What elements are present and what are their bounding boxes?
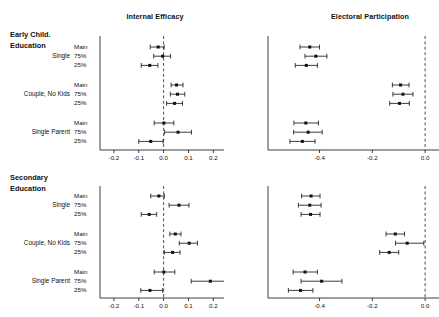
axis-tick-label: 0.0 — [150, 154, 178, 161]
estimate-marker — [154, 270, 175, 275]
axis-tick-label: 0.2 — [199, 154, 227, 161]
estimate-marker — [390, 101, 410, 106]
axis-tick-label: 0.0 — [150, 302, 178, 309]
estimate-marker — [151, 194, 165, 199]
estimate-marker — [170, 232, 181, 237]
axis-tick-label: -0.1 — [125, 302, 153, 309]
estimate-marker — [150, 45, 164, 50]
estimate-marker — [139, 139, 163, 144]
axis-tick-label: -0.2 — [358, 154, 386, 161]
forest-plot-figure: Internal Efficacy Electoral Participatio… — [0, 0, 439, 317]
axis-tick-label: 0.0 — [411, 302, 439, 309]
axis-tick-label: -0.2 — [358, 302, 386, 309]
estimate-marker — [393, 92, 413, 97]
estimate-marker — [171, 83, 183, 88]
estimate-marker — [380, 250, 399, 255]
axis-tick-label: -0.2 — [100, 154, 128, 161]
axis-tick-label: 0.1 — [174, 154, 202, 161]
estimate-marker — [179, 241, 197, 246]
estimate-marker — [165, 130, 192, 135]
estimate-marker — [293, 270, 317, 275]
axis-tick-label: 0.0 — [411, 154, 439, 161]
axis-tick-label: -0.4 — [306, 302, 334, 309]
axis-tick-label: -0.2 — [100, 302, 128, 309]
estimate-marker — [164, 250, 180, 255]
estimate-marker — [392, 83, 409, 88]
estimate-marker — [302, 194, 320, 199]
estimate-marker — [288, 288, 313, 293]
estimate-marker — [298, 203, 321, 208]
estimate-marker — [141, 63, 158, 68]
estimate-marker — [396, 241, 424, 246]
estimate-marker — [154, 54, 171, 59]
estimate-marker — [305, 54, 327, 59]
axis-tick-label: 0.1 — [174, 302, 202, 309]
axis-tick-label: -0.1 — [125, 154, 153, 161]
estimate-marker — [301, 212, 320, 217]
estimate-marker — [169, 203, 189, 208]
estimate-marker — [141, 288, 163, 293]
estimate-marker — [141, 212, 156, 217]
axis-tick-label: 0.2 — [199, 302, 227, 309]
estimate-marker — [386, 232, 404, 237]
estimate-marker — [295, 63, 317, 68]
estimate-marker — [290, 139, 315, 144]
estimate-marker — [191, 279, 224, 284]
estimate-marker — [301, 279, 342, 284]
estimate-marker — [294, 121, 319, 126]
estimate-marker — [167, 101, 183, 106]
estimate-marker — [170, 92, 184, 97]
estimate-marker — [300, 45, 320, 50]
axis-tick-label: -0.4 — [306, 154, 334, 161]
estimate-marker — [294, 130, 323, 135]
